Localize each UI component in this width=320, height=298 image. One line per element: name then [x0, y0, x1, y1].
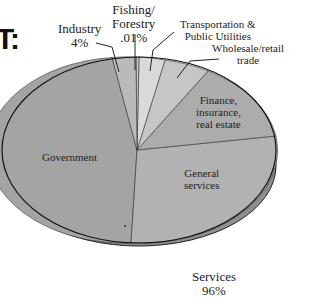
label-fishing: Fishing/ Forestry .01%	[112, 3, 155, 45]
label-general-services: General services	[184, 167, 219, 191]
label-industry: Industry 4%	[58, 22, 101, 50]
label-government: Government	[42, 151, 97, 163]
label-services: Services 96%	[192, 270, 236, 298]
label-wholesale: Wholesale/retail trade	[212, 42, 284, 66]
label-finance: Finance, insurance, real estate	[196, 94, 241, 130]
label-transportation: Transportation & Public Utilities	[180, 18, 256, 42]
